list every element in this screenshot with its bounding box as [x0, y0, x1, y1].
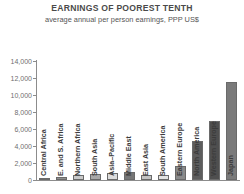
- x-axis-category-label: South America: [158, 126, 167, 176]
- plot-area: Central AfricaE. and S. AfricaNorthern A…: [36, 60, 240, 181]
- y-axis-tick-label: 8,000: [0, 109, 32, 116]
- bar-slot: Northern Africa: [73, 60, 85, 180]
- x-axis-category-label: Western Europe: [209, 121, 218, 176]
- bar-slot: North America: [192, 60, 204, 180]
- bar-slot: Asia–Pacific: [107, 60, 119, 180]
- y-axis-tick-label: 12,000: [0, 75, 32, 82]
- bar-slot: East Asia: [141, 60, 153, 180]
- bar-slot: Eastern Europe: [175, 60, 187, 180]
- x-axis-category-label: Eastern Europe: [175, 123, 184, 176]
- x-axis-category-label: Central Africa: [39, 129, 48, 176]
- x-axis-category-label: Japan: [226, 155, 235, 176]
- y-axis-tick: [33, 180, 37, 181]
- y-axis-tick-label: 10,000: [0, 92, 32, 99]
- bar-slot: Japan: [226, 60, 238, 180]
- bar: [56, 177, 68, 180]
- x-axis-category-label: Middle East: [124, 136, 133, 176]
- bar-slot: Central Africa: [39, 60, 51, 180]
- bar-slot: Western Europe: [209, 60, 221, 180]
- x-axis-category-label: Northern Africa: [73, 124, 82, 176]
- x-axis-category-label: East Asia: [141, 144, 150, 176]
- x-axis-category-label: North America: [192, 127, 201, 176]
- x-axis-category-label: South Asia: [90, 139, 99, 176]
- bar-slot: South Asia: [90, 60, 102, 180]
- bar-slot: South America: [158, 60, 170, 180]
- y-axis-tick-label: 14,000: [0, 58, 32, 65]
- x-axis-category-label: E. and S. Africa: [56, 124, 65, 176]
- bar-chart: EARNINGS OF POOREST TENTH average annual…: [0, 0, 244, 194]
- bar-slot: Middle East: [124, 60, 136, 180]
- chart-title: EARNINGS OF POOREST TENTH: [0, 3, 244, 13]
- y-axis-tick-label: 2,000: [0, 160, 32, 167]
- x-axis-line: [36, 180, 240, 181]
- y-axis-tick-label: 4,000: [0, 143, 32, 150]
- bar: [39, 178, 51, 180]
- chart-subtitle: average annual per person earnings, PPP …: [0, 15, 244, 24]
- y-axis-tick-label: 6,000: [0, 126, 32, 133]
- y-axis-tick-label: 0: [0, 177, 32, 184]
- x-axis-category-label: Asia–Pacific: [107, 134, 116, 176]
- bar-slot: E. and S. Africa: [56, 60, 68, 180]
- bar-series: Central AfricaE. and S. AfricaNorthern A…: [36, 60, 240, 180]
